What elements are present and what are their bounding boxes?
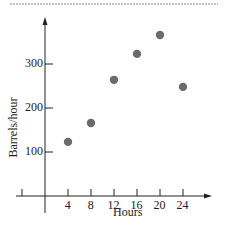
x-tick-label: 24 xyxy=(177,198,189,213)
data-point xyxy=(110,76,118,84)
data-point xyxy=(133,50,141,58)
data-point xyxy=(179,83,187,91)
data-point xyxy=(156,31,164,39)
axes xyxy=(16,17,212,213)
y-axis-label: Barrels/hour xyxy=(6,98,21,158)
x-tick-label: 16 xyxy=(131,198,143,213)
y-tick-label: 200 xyxy=(25,100,43,115)
data-point xyxy=(64,138,72,146)
x-tick-label: 4 xyxy=(65,198,71,213)
y-tick-label: 100 xyxy=(25,144,43,159)
x-tick-label: 12 xyxy=(108,198,120,213)
data-points xyxy=(64,31,187,146)
y-tick-label: 300 xyxy=(25,56,43,71)
x-tick-label: 8 xyxy=(88,198,94,213)
data-point xyxy=(87,119,95,127)
x-tick-label: 20 xyxy=(154,198,166,213)
